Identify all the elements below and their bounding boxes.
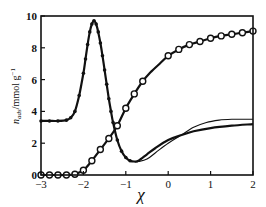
data-point — [88, 30, 92, 34]
y-tick-label: 2 — [32, 137, 38, 149]
data-point — [48, 119, 52, 123]
data-point — [106, 135, 112, 141]
x-tick-label: 1 — [208, 178, 214, 190]
data-point — [82, 71, 86, 75]
data-point — [77, 94, 81, 98]
data-point — [94, 22, 98, 26]
series-peak-curve-fit — [39, 19, 253, 163]
data-point — [239, 30, 245, 36]
x-tick-label: 2 — [250, 178, 256, 190]
data-point — [103, 68, 107, 72]
data-point — [97, 147, 103, 153]
chart: −3−2−1012 0246810 χ nads/mmol g−1 — [0, 0, 266, 207]
data-point — [229, 31, 235, 37]
plot-frame — [41, 16, 253, 175]
data-point — [109, 110, 113, 114]
data-point — [105, 83, 109, 87]
data-point — [89, 158, 95, 164]
data-point — [124, 156, 128, 160]
data-point — [176, 46, 182, 52]
data-point — [73, 110, 77, 114]
data-point — [114, 123, 120, 129]
data-point — [99, 41, 103, 45]
y-tick-label: 4 — [32, 105, 38, 117]
data-point — [116, 138, 120, 142]
data-point — [131, 91, 137, 97]
data-point — [65, 118, 69, 122]
data-point — [56, 119, 60, 123]
x-tick-label: −2 — [78, 178, 90, 190]
data-point — [120, 149, 124, 153]
data-point — [197, 38, 203, 44]
data-point — [123, 105, 129, 111]
data-point — [140, 78, 146, 84]
y-label-units: /mmol g — [10, 76, 21, 110]
y-tick-label: 10 — [26, 10, 38, 22]
series-line — [41, 21, 253, 162]
y-axis: 0246810 — [26, 10, 45, 181]
x-tick-label: 0 — [165, 178, 171, 190]
y-tick-label: 0 — [32, 169, 38, 181]
data-point — [69, 116, 73, 120]
svg-text:nads/mmol g−1: nads/mmol g−1 — [9, 68, 23, 124]
y-label-exp: −1 — [9, 68, 17, 76]
y-axis-title: nads/mmol g−1 — [9, 68, 23, 124]
data-point — [101, 54, 105, 58]
data-point — [92, 19, 96, 23]
y-tick-label: 6 — [32, 74, 38, 86]
data-point — [165, 53, 171, 59]
data-point — [208, 35, 214, 41]
data-point — [84, 57, 88, 61]
x-tick-label: −1 — [120, 178, 132, 190]
data-point — [90, 22, 94, 26]
y-label-sub: ads — [15, 109, 23, 119]
plot-area — [38, 19, 256, 178]
data-point — [86, 43, 90, 47]
x-axis-title: χ — [135, 185, 145, 204]
data-point — [96, 30, 100, 34]
data-point — [186, 42, 192, 48]
data-point — [107, 97, 111, 101]
y-tick-label: 8 — [32, 42, 38, 54]
data-point — [218, 33, 224, 39]
